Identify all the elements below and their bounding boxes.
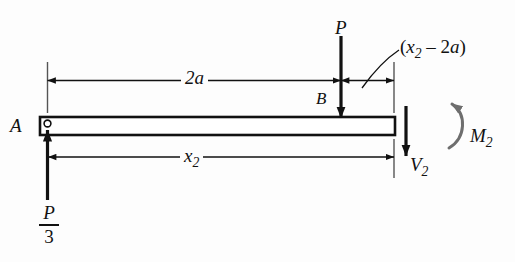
pin-support-icon [44, 120, 51, 127]
label-applied-load: P [335, 18, 347, 37]
label-moment-m2: M2 [470, 126, 493, 149]
x-base: x [406, 36, 414, 57]
a-symbol: a [450, 36, 460, 57]
figure-canvas: A B P 2a x2 (x2 – 2a) V2 M2 P 3 [0, 0, 515, 262]
label-shear-subscript: 2 [422, 164, 429, 179]
label-shear-v2: V2 [410, 155, 428, 178]
beam-body [40, 117, 395, 135]
label-moment-base: M [470, 125, 486, 146]
label-moment-subscript: 2 [486, 135, 493, 150]
minus-two: – 2 [422, 36, 451, 57]
paren-close: ) [460, 36, 466, 57]
label-dimension-x2-subscript: 2 [192, 155, 199, 170]
label-reaction-p-over-3: P 3 [36, 203, 62, 246]
label-dimension-x2: x2 [180, 146, 203, 169]
label-point-a: A [10, 116, 22, 135]
reaction-denominator: 3 [36, 227, 62, 247]
moment-arc-M2 [449, 104, 463, 148]
label-shear-base: V [410, 154, 422, 175]
reaction-numerator: P [36, 203, 62, 223]
x-subscript: 2 [415, 46, 422, 61]
label-point-b: B [316, 90, 326, 107]
label-dimension-2a: 2a [181, 68, 208, 87]
label-dimension-x2-minus-2a: (x2 – 2a) [400, 37, 466, 60]
